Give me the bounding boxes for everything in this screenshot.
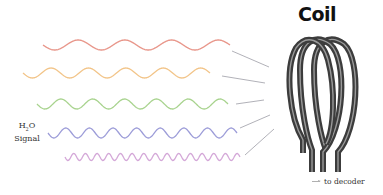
diagram-canvas (0, 0, 383, 195)
coil-diagram: Coil H2O Signal to decoder (0, 0, 383, 195)
wave-red (43, 40, 230, 50)
arrow-right-icon (312, 181, 320, 182)
connector-line-5 (245, 129, 274, 155)
connector-line-2 (222, 76, 265, 83)
signal-text: Signal (14, 134, 40, 144)
wave-orange (23, 68, 210, 78)
connector-lines (222, 51, 274, 155)
signal-waves (23, 40, 240, 160)
diagram-title: Coil (298, 3, 336, 25)
wave-green (37, 99, 228, 109)
connector-line-4 (240, 115, 270, 128)
h2o-formula: H2O (14, 121, 40, 134)
wave-purple (65, 154, 240, 161)
h2o-signal-label: H2O Signal (14, 121, 40, 144)
legend-label: to decoder (324, 177, 365, 186)
legend: to decoder (312, 177, 365, 186)
wave-blue (48, 128, 237, 138)
connector-line-1 (232, 51, 269, 67)
coil-icon (290, 40, 356, 172)
connector-line-3 (236, 100, 264, 104)
